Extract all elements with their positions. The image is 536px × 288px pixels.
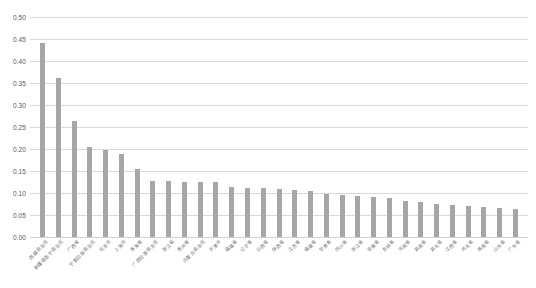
bar[interactable] xyxy=(198,182,203,237)
y-tick-label: 0.10 xyxy=(13,190,26,197)
y-tick-label: 0.35 xyxy=(13,80,26,87)
bar[interactable] xyxy=(261,188,266,237)
y-tick-label: 0.00 xyxy=(13,234,26,241)
x-axis-labels: 西藏自治区新疆维吾尔自治区广西省宁夏回族自治区北京市上海市青海省广西壮族自治区浙… xyxy=(30,239,528,288)
bar[interactable] xyxy=(292,190,297,237)
bar[interactable] xyxy=(166,181,171,237)
y-axis: 0.500.450.400.350.300.250.200.150.100.05… xyxy=(0,0,30,288)
x-tick-label: 甘肃省 xyxy=(319,239,333,253)
bar[interactable] xyxy=(403,201,408,237)
bar[interactable] xyxy=(213,182,218,237)
x-tick-label: 辽宁省 xyxy=(240,239,254,253)
x-tick-label: 江苏省 xyxy=(287,239,301,253)
x-tick-label: 广东省 xyxy=(508,239,522,253)
x-tick-label: 福建省 xyxy=(224,239,238,253)
y-tick-label: 0.40 xyxy=(13,58,26,65)
x-tick-label: 山东省 xyxy=(492,239,506,253)
x-tick-label: 湖南省 xyxy=(413,239,427,253)
x-tick-label: 山西省 xyxy=(256,239,270,253)
x-tick-label: 江西省 xyxy=(445,239,459,253)
bar[interactable] xyxy=(450,205,455,237)
gridline xyxy=(30,237,528,238)
x-tick-label: 陕西省 xyxy=(271,239,285,253)
bar[interactable] xyxy=(135,169,140,237)
x-tick-label: 天津市 xyxy=(208,239,222,253)
bar[interactable] xyxy=(418,202,423,237)
x-tick-label: 新疆维吾尔自治区 xyxy=(33,239,65,271)
plot-area xyxy=(30,17,528,237)
bar[interactable] xyxy=(371,197,376,237)
x-tick-label: 河南省 xyxy=(397,239,411,253)
bar[interactable] xyxy=(182,182,187,237)
x-tick-label: 河北省 xyxy=(461,239,475,253)
x-tick-label: 湖北省 xyxy=(429,239,443,253)
bar[interactable] xyxy=(72,121,77,237)
bar[interactable] xyxy=(40,43,45,237)
y-tick-label: 0.20 xyxy=(13,146,26,153)
y-tick-label: 0.15 xyxy=(13,168,26,175)
x-tick-label: 浙江省 xyxy=(350,239,364,253)
bar[interactable] xyxy=(481,207,486,237)
bar[interactable] xyxy=(324,194,329,237)
bar[interactable] xyxy=(497,208,502,237)
bar[interactable] xyxy=(355,196,360,237)
bar[interactable] xyxy=(434,204,439,237)
x-tick-label: 北京市 xyxy=(98,239,112,253)
bar[interactable] xyxy=(466,206,471,237)
bar[interactable] xyxy=(387,198,392,237)
y-tick-label: 0.25 xyxy=(13,124,26,131)
y-tick-label: 0.05 xyxy=(13,212,26,219)
bar[interactable] xyxy=(340,195,345,237)
bar[interactable] xyxy=(229,187,234,237)
bar[interactable] xyxy=(56,78,61,237)
bar[interactable] xyxy=(103,150,108,237)
y-tick-label: 0.50 xyxy=(13,14,26,21)
x-tick-label: 安徽省 xyxy=(366,239,380,253)
bar[interactable] xyxy=(308,191,313,237)
bar[interactable] xyxy=(277,189,282,237)
bars-layer xyxy=(30,17,528,237)
x-tick-label: 上海市 xyxy=(114,239,128,253)
x-tick-label: 海南省 xyxy=(476,239,490,253)
y-tick-label: 0.30 xyxy=(13,102,26,109)
bar[interactable] xyxy=(87,147,92,237)
x-tick-label: 浙江省 xyxy=(161,239,175,253)
bar[interactable] xyxy=(245,188,250,237)
bar[interactable] xyxy=(150,181,155,237)
y-tick-label: 0.45 xyxy=(13,36,26,43)
x-tick-label: 福建省 xyxy=(303,239,317,253)
bar-chart: 0.500.450.400.350.300.250.200.150.100.05… xyxy=(0,0,536,288)
bar[interactable] xyxy=(119,154,124,237)
bar[interactable] xyxy=(513,209,518,237)
x-tick-label: 吉林省 xyxy=(382,239,396,253)
x-tick-label: 四川省 xyxy=(334,239,348,253)
